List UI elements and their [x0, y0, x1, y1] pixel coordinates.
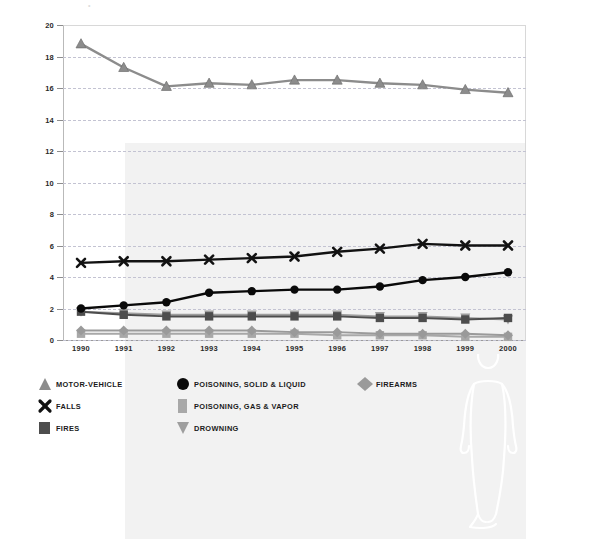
- legend-label: POISONING, GAS & VAPOR: [194, 402, 299, 411]
- circle-marker: [205, 289, 213, 297]
- square-marker: [290, 312, 298, 320]
- legend-item-motor-vehicle[interactable]: MOTOR-VEHICLE: [34, 373, 122, 395]
- legend-item-fires[interactable]: FIRES: [34, 417, 122, 439]
- chart-page: • Deaths per 100,000 Population 02468101…: [0, 0, 616, 539]
- square-marker: [162, 312, 170, 320]
- legend-label: DROWNING: [194, 424, 239, 433]
- circle-marker: [418, 276, 426, 284]
- circle-marker: [333, 285, 341, 293]
- square-marker: [205, 312, 213, 320]
- legend-label: POISONING, SOLID & LIQUID: [194, 380, 306, 389]
- square-marker: [376, 314, 384, 322]
- legend-label: FIREARMS: [376, 380, 417, 389]
- series-poisoning-solid-liquid: [77, 268, 512, 313]
- square-icon: [34, 419, 56, 437]
- legend-item-falls[interactable]: FALLS: [34, 395, 122, 417]
- series-line: [81, 44, 508, 93]
- legend-label: FALLS: [56, 402, 81, 411]
- triangle-up-marker: [76, 39, 86, 48]
- series-layer: [0, 0, 616, 539]
- circle-icon: [172, 375, 194, 393]
- x-marker-icon: [34, 397, 56, 415]
- series-line: [81, 244, 508, 263]
- circle-marker: [162, 298, 170, 306]
- diamond-icon: [354, 375, 376, 393]
- legend-label: FIRES: [56, 424, 80, 433]
- square-marker: [504, 314, 512, 322]
- legend-column-3: FIREARMS: [354, 373, 417, 395]
- circle-marker: [248, 287, 256, 295]
- legend-item-poisoning-gas-vapor[interactable]: POISONING, GAS & VAPOR: [172, 395, 306, 417]
- square-marker: [120, 311, 128, 319]
- circle-marker: [461, 273, 469, 281]
- square-marker: [461, 315, 469, 323]
- square-marker: [418, 314, 426, 322]
- legend-item-firearms[interactable]: FIREARMS: [354, 373, 417, 395]
- circle-marker: [504, 268, 512, 276]
- circle-marker: [120, 301, 128, 309]
- legend-item-poisoning-solid-liquid[interactable]: POISONING, SOLID & LIQUID: [172, 373, 306, 395]
- legend-column-1: MOTOR-VEHICLE FALLS FIRES: [34, 373, 122, 439]
- series-fires: [77, 307, 512, 323]
- series-falls: [77, 240, 512, 267]
- series-motor-vehicle: [76, 39, 513, 97]
- square-marker: [248, 312, 256, 320]
- circle-marker: [290, 285, 298, 293]
- legend-label: MOTOR-VEHICLE: [56, 380, 122, 389]
- square-light-icon: [172, 397, 194, 415]
- legend-column-2: POISONING, SOLID & LIQUID POISONING, GAS…: [172, 373, 306, 439]
- circle-marker: [77, 304, 85, 312]
- circle-marker: [376, 282, 384, 290]
- triangle-down-icon: [172, 419, 194, 437]
- square-marker: [333, 312, 341, 320]
- triangle-up-icon: [34, 375, 56, 393]
- legend-item-drowning[interactable]: DROWNING: [172, 417, 306, 439]
